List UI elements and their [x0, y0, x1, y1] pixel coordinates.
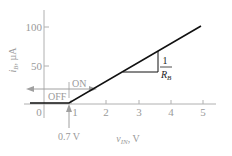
svg-text:iB, µA: iB, µA — [7, 47, 20, 73]
x-tick-label-3: 3 — [136, 106, 142, 118]
x-tick-label-1: 1 — [72, 106, 78, 118]
x-tick-label-4: 4 — [168, 106, 174, 118]
off-arrow-head — [26, 86, 34, 92]
x-axis-label: vIN, V — [116, 133, 140, 146]
off-label: OFF — [48, 91, 67, 102]
x-tick-label-0: 0 — [36, 106, 42, 118]
slope-numerator: 1 — [163, 55, 168, 66]
y-tick-label-100: 100 — [26, 21, 43, 33]
threshold-arrow-head — [66, 104, 72, 112]
threshold-label: 0.7 V — [58, 131, 81, 142]
y-tick-label-50: 50 — [31, 60, 43, 72]
x-tick-label-5: 5 — [200, 106, 206, 118]
y-axis-label: iB, µA — [7, 47, 20, 73]
slope-denominator: RB — [160, 69, 172, 82]
x-tick-label-2: 2 — [103, 106, 109, 118]
diagram-canvas: 100 50 iB, µA 0 1 2 3 4 5 vIN, V OFF ON … — [0, 0, 232, 156]
on-label: ON — [72, 78, 86, 89]
